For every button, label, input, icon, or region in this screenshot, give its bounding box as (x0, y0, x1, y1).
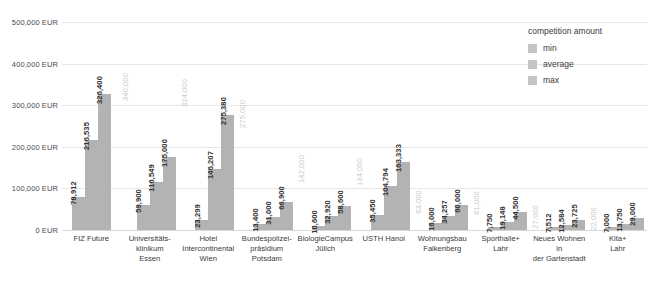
bar-value-label: 23,725 (570, 204, 579, 228)
bar-min[interactable]: 13,400 (254, 22, 267, 230)
legend-item-average[interactable]: average (528, 59, 653, 69)
x-axis-tick-label: Universitäts-klinikumEssen (121, 234, 180, 264)
bar-value-label: 44,500 (511, 196, 520, 220)
x-axis-tick-label: Neues Wohnen inder Gartenstadt (530, 234, 589, 264)
bar-group: 142,00010,60032,92058,600 (296, 22, 355, 230)
x-axis-tick-label: BiologieCampusJülich (296, 234, 355, 264)
ghost-total-label: 142,000 (297, 155, 306, 183)
bar-value-label: 31,000 (264, 201, 273, 225)
bar-value-label: 13,750 (615, 209, 624, 233)
bar-max[interactable]: 60,000 (455, 22, 468, 230)
bar-group-bars: 61,0007,75019,14844,500 (475, 22, 527, 230)
bar-value-label: 78,912 (69, 181, 78, 205)
x-axis-tick-label: Bundespolizei-präsidiumPotsdam (238, 234, 297, 264)
bar-group: 134,00035,450104,794163,333 (355, 22, 414, 230)
bar-value-label: 16,000 (427, 208, 436, 232)
bar-rect[interactable] (397, 162, 410, 230)
x-axis-tick-label: FIZ Future (62, 234, 121, 264)
bar-group: 63,00016,00034,25760,000 (413, 22, 472, 230)
bar-value-label: 58,600 (336, 190, 345, 214)
bar-value-label: 275,380 (219, 98, 228, 126)
bar-rect[interactable] (98, 94, 111, 230)
y-axis-tick-label: 400,000 EUR (0, 59, 58, 68)
legend-item-label: average (543, 59, 574, 69)
bar-min[interactable]: 7,750 (488, 22, 501, 230)
bar-group-bars: 134,00035,450104,794163,333 (358, 22, 410, 230)
bar-value-label: 29,000 (628, 202, 637, 226)
bar-value-label: 34,257 (440, 200, 449, 224)
bar-min[interactable]: 23,299 (195, 22, 208, 230)
legend-items: minaveragemax (528, 43, 653, 85)
ghost-total-label: 61,000 (472, 191, 481, 215)
bar-value-label: 32,920 (323, 201, 332, 225)
bar-average[interactable]: 116,549 (150, 22, 163, 230)
bar-max[interactable]: 275,380 (221, 22, 234, 230)
x-axis-tick-labels: FIZ FutureUniversitäts-klinikumEssenHote… (62, 234, 647, 264)
bar-rect[interactable] (163, 157, 176, 230)
bar-max[interactable]: 163,333 (397, 22, 410, 230)
bar-group: 340,00059,900116,549175,000 (121, 22, 180, 230)
bar-value-label: 116,549 (147, 164, 156, 191)
bar-group-bars: 78,912216,535326,400 (72, 22, 111, 230)
bar-group-bars: 275,00013,40031,00066,900 (241, 22, 293, 230)
bar-value-label: 146,207 (206, 151, 215, 179)
ghost-total-annotation: 275,000 (241, 22, 254, 230)
bar-min[interactable]: 59,900 (137, 22, 150, 230)
bar-value-label: 163,333 (394, 144, 403, 172)
x-axis-tick-label: USTH Hanoi (355, 234, 414, 264)
bar-min[interactable]: 16,000 (429, 22, 442, 230)
bar-min[interactable]: 35,450 (371, 22, 384, 230)
y-axis-tick-label: 0 EUR (0, 226, 58, 235)
bar-group-bars: 340,00059,900116,549175,000 (124, 22, 176, 230)
bar-value-label: 35,450 (368, 199, 377, 223)
ghost-total-label: 324,000 (180, 79, 189, 107)
bar-value-label: 60,000 (453, 189, 462, 213)
bar-rect[interactable] (85, 140, 98, 230)
legend-item-label: max (543, 75, 559, 85)
bar-value-label: 66,900 (277, 186, 286, 210)
bar-average[interactable]: 216,535 (85, 22, 98, 230)
bar-max[interactable]: 326,400 (98, 22, 111, 230)
legend-swatch-icon (528, 60, 537, 69)
ghost-total-annotation: 63,000 (416, 22, 429, 230)
x-axis-tick-label: WohnungsbauFalkenberg (413, 234, 472, 264)
bar-group: 275,00013,40031,00066,900 (238, 22, 297, 230)
bar-group: 324,00023,299146,207275,380 (179, 22, 238, 230)
x-axis-tick-label: Kita+Lahr (589, 234, 648, 264)
bar-value-label: 12,584 (557, 209, 566, 233)
bar-max[interactable]: 58,600 (338, 22, 351, 230)
legend-item-min[interactable]: min (528, 43, 653, 53)
bar-value-label: 23,299 (193, 205, 202, 229)
x-axis-tick-label: HotelIntercontinentalWien (179, 234, 238, 264)
y-axis-tick-label: 500,000 EUR (0, 18, 58, 27)
bar-value-label: 59,900 (134, 189, 143, 213)
bar-group-bars: 63,00016,00034,25760,000 (416, 22, 468, 230)
legend-item-max[interactable]: max (528, 75, 653, 85)
ghost-total-label: 63,000 (414, 190, 423, 214)
bar-value-label: 13,400 (251, 209, 260, 233)
bar-value-label: 216,535 (82, 122, 91, 150)
ghost-total-label: 340,000 (121, 73, 130, 101)
x-axis-tick-label: Sporthalle+Lahr (472, 234, 531, 264)
bar-value-label: 7,000 (602, 213, 611, 232)
bar-rect[interactable] (221, 115, 234, 230)
bar-max[interactable]: 175,000 (163, 22, 176, 230)
bar-value-label: 19,148 (498, 206, 507, 230)
ghost-total-annotation: 61,000 (475, 22, 488, 230)
legend: competition amount minaveragemax (528, 26, 653, 91)
y-axis-tick-label: 200,000 EUR (0, 142, 58, 151)
bar-group: 61,0007,75019,14844,500 (472, 22, 531, 230)
bar-max[interactable]: 44,500 (514, 22, 527, 230)
bar-average[interactable]: 104,794 (384, 22, 397, 230)
bar-value-label: 326,400 (95, 76, 104, 104)
bar-group-bars: 142,00010,60032,92058,600 (299, 22, 351, 230)
bar-max[interactable]: 66,900 (280, 22, 293, 230)
ghost-total-annotation: 142,000 (299, 22, 312, 230)
bar-value-label: 104,794 (381, 169, 390, 197)
legend-swatch-icon (528, 76, 537, 85)
bar-average[interactable]: 146,207 (208, 22, 221, 230)
y-axis-tick-label: 300,000 EUR (0, 101, 58, 110)
bar-min[interactable]: 10,600 (312, 22, 325, 230)
bar-value-label: 175,000 (160, 139, 169, 167)
y-axis-tick-label: 100,000 EUR (0, 184, 58, 193)
